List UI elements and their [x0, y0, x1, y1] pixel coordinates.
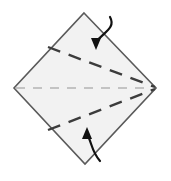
origami-canvas	[0, 0, 171, 181]
origami-diagram: Origami fold step diagram Square sheet r…	[0, 0, 171, 181]
